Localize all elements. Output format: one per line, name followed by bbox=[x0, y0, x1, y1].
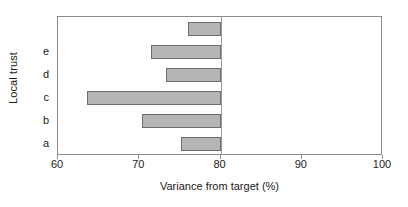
x-tick-label-90: 90 bbox=[295, 159, 307, 170]
y-tick-label-b: b bbox=[43, 115, 49, 126]
plot-area bbox=[57, 16, 382, 155]
bar-b bbox=[142, 114, 221, 128]
bar-d bbox=[166, 68, 220, 82]
bar-chart: Local trust edcba 60708090100 Variance f… bbox=[0, 0, 408, 207]
x-tick-label-100: 100 bbox=[373, 159, 391, 170]
y-tick-label-c: c bbox=[44, 92, 50, 103]
x-axis-title: Variance from target (%) bbox=[57, 180, 382, 192]
bar-a bbox=[181, 137, 221, 151]
x-tick-label-70: 70 bbox=[132, 159, 144, 170]
y-axis-tick-labels: edcba bbox=[26, 16, 54, 155]
y-tick-label-a: a bbox=[43, 138, 49, 149]
y-axis-title-label: Local trust bbox=[7, 52, 19, 104]
x-tick-label-80: 80 bbox=[213, 159, 225, 170]
target-reference-line bbox=[221, 17, 222, 154]
y-tick-label-e: e bbox=[43, 45, 49, 56]
x-tick-label-60: 60 bbox=[51, 159, 63, 170]
y-tick-label-d: d bbox=[43, 68, 49, 79]
bar-unlabeled bbox=[188, 22, 221, 36]
bar-e bbox=[151, 45, 221, 59]
y-axis-title: Local trust bbox=[0, 0, 26, 155]
bar-c bbox=[87, 91, 220, 105]
plot-inner bbox=[58, 17, 381, 154]
x-axis-tick-labels: 60708090100 bbox=[57, 159, 382, 175]
